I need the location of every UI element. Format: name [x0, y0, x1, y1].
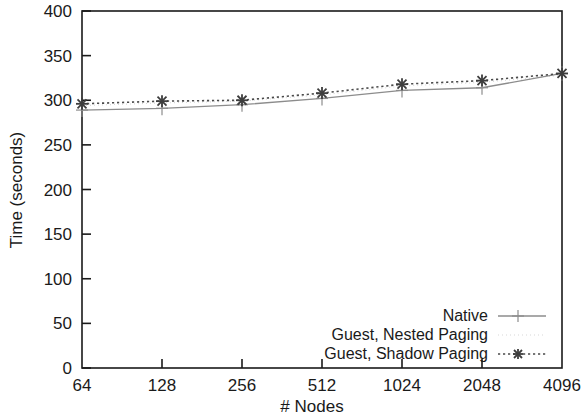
- y-tick-label: 300: [44, 91, 72, 110]
- y-tick-label: 0: [63, 359, 72, 378]
- y-tick-label: 200: [44, 181, 72, 200]
- legend-swatch-guest-shadow-paging: [498, 349, 546, 359]
- legend-swatch-native: [498, 310, 546, 322]
- cross-marker-icon: [156, 95, 168, 107]
- line-chart-svg: 050100150200250300350400 641282565121024…: [0, 0, 585, 420]
- x-tick-label: 128: [148, 376, 176, 395]
- x-tick-label: 256: [228, 376, 256, 395]
- x-tick-label: 1024: [383, 376, 421, 395]
- y-tick-label: 150: [44, 225, 72, 244]
- y-tick-label: 250: [44, 136, 72, 155]
- y-axis-title: Time (seconds): [7, 132, 26, 249]
- x-tick-label: 2048: [463, 376, 501, 395]
- y-axis-tick-labels: 050100150200250300350400: [44, 2, 72, 378]
- x-axis-title: # Nodes: [280, 397, 343, 416]
- cross-marker-icon: [476, 75, 488, 87]
- y-tick-label: 50: [53, 314, 72, 333]
- cross-marker-icon: [556, 67, 568, 79]
- cross-marker-icon: [316, 87, 328, 99]
- y-tick-label: 100: [44, 270, 72, 289]
- y-axis-ticks: [82, 11, 91, 368]
- x-tick-label: 64: [73, 376, 92, 395]
- x-tick-label: 512: [308, 376, 336, 395]
- cross-marker-icon: [236, 94, 248, 106]
- x-axis-tick-labels: 64128256512102420484096: [73, 376, 581, 395]
- y-tick-label: 350: [44, 47, 72, 66]
- legend: Native Guest, Nested Paging Guest, Shado…: [324, 307, 546, 362]
- cross-marker-icon: [76, 98, 88, 110]
- y-tick-label: 400: [44, 2, 72, 21]
- cross-marker-icon: [513, 349, 523, 359]
- cross-marker-icon: [396, 78, 408, 90]
- legend-label-guest-nested-paging: Guest, Nested Paging: [331, 326, 488, 343]
- legend-label-guest-shadow-paging: Guest, Shadow Paging: [324, 345, 488, 362]
- chart-container: 050100150200250300350400 641282565121024…: [0, 0, 585, 420]
- x-tick-label: 4096: [543, 376, 581, 395]
- legend-label-native: Native: [443, 307, 488, 324]
- plot-frame: [82, 11, 562, 368]
